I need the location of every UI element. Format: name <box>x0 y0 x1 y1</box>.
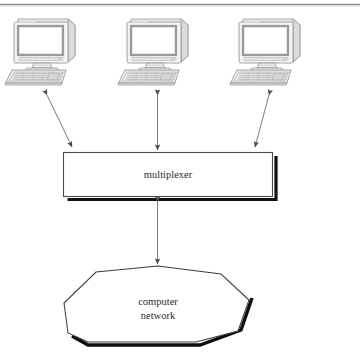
link-terminal1-mux <box>47 95 72 147</box>
desktop-computer-icon <box>127 19 188 72</box>
keyboard-icon <box>5 70 66 85</box>
network-label-line2: network <box>141 310 176 321</box>
multiplexer-label: multiplexer <box>144 169 193 180</box>
network-label-line1: computer <box>138 296 178 307</box>
keyboard-icon <box>118 70 179 85</box>
terminal-1[interactable] <box>5 19 75 85</box>
terminal-2[interactable] <box>118 19 188 85</box>
multiplexer-box[interactable]: multiplexer <box>64 153 277 200</box>
link-terminal3-mux <box>255 95 269 147</box>
network-cloud[interactable]: computer network <box>64 266 252 345</box>
keyboard-icon <box>230 70 291 85</box>
diagram-page: multiplexer computer network <box>0 0 360 362</box>
desktop-computer-icon <box>239 19 300 72</box>
top-divider-rule <box>0 5 360 7</box>
terminal-3[interactable] <box>230 19 300 85</box>
desktop-computer-icon <box>14 19 75 72</box>
network-diagram: multiplexer computer network <box>0 0 360 362</box>
